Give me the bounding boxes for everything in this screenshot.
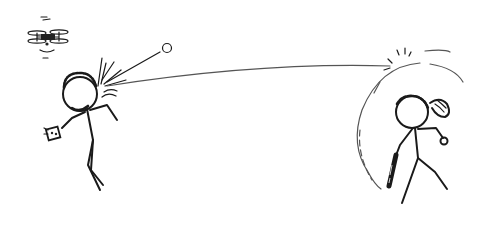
ball-trajectory-line xyxy=(107,65,390,86)
man-leg xyxy=(91,140,103,185)
deflection-spark-icon xyxy=(384,48,411,70)
remote-controller-icon xyxy=(44,127,60,141)
baseball-bat-icon xyxy=(389,155,396,186)
drone-wind-mark xyxy=(40,50,54,52)
man-arm xyxy=(62,112,85,128)
drone-icon xyxy=(28,17,68,58)
right-figure xyxy=(389,96,449,203)
drone-sound-mark xyxy=(43,19,50,20)
drone-body xyxy=(41,34,55,40)
ball-icon xyxy=(107,44,172,83)
woman-arm xyxy=(418,128,443,138)
force-field-dome xyxy=(357,50,463,189)
held-ball-icon xyxy=(441,138,448,145)
woman-leg xyxy=(402,158,418,203)
impact-burst-icon xyxy=(98,58,126,97)
man-head xyxy=(63,73,97,111)
woman-head xyxy=(396,96,449,128)
man-arm xyxy=(90,105,117,120)
comic-canvas xyxy=(0,0,489,226)
